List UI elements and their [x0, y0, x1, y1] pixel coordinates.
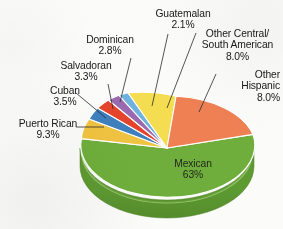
slice-label-puerto-rican-value: 9.3%	[2, 129, 94, 140]
slice-label-dominican-name: Dominican	[62, 34, 158, 45]
slice-label-other-hispanic: Other Hispanic 8.0%	[196, 69, 280, 103]
slice-label-central-south-american-value: 8.0%	[192, 51, 283, 62]
slice-label-mexican: Mexican 63%	[158, 158, 228, 181]
slice-label-central-south-american: Other Central/ South American 8.0%	[192, 28, 283, 62]
slice-label-dominican-value: 2.8%	[62, 45, 158, 56]
slice-label-central-south-american-name-line2: South American	[192, 39, 283, 50]
slice-label-cuban-value: 3.5%	[22, 96, 108, 107]
slice-label-puerto-rican: Puerto Rican 9.3%	[2, 118, 94, 141]
slice-label-mexican-name: Mexican	[158, 158, 228, 169]
slice-label-other-hispanic-name-line2: Hispanic	[196, 80, 280, 91]
slice-label-cuban: Cuban 3.5%	[22, 85, 108, 108]
slice-label-puerto-rican-name: Puerto Rican	[2, 118, 94, 129]
slice-label-mexican-value: 63%	[158, 169, 228, 180]
slice-label-cuban-name: Cuban	[22, 85, 108, 96]
slice-label-salvadoran-name: Salvadoran	[38, 60, 134, 71]
slice-label-other-hispanic-name-line1: Other	[196, 69, 280, 80]
slice-label-salvadoran-value: 3.3%	[38, 71, 134, 82]
slice-label-other-hispanic-value: 8.0%	[196, 92, 280, 103]
slice-label-dominican: Dominican 2.8%	[62, 34, 158, 57]
slice-label-central-south-american-name-line1: Other Central/	[192, 28, 283, 39]
pie-chart-figure: Guatemalan 2.1% Other Central/ South Ame…	[0, 0, 283, 229]
pie-slices	[81, 92, 255, 197]
slice-label-salvadoran: Salvadoran 3.3%	[38, 60, 134, 83]
slice-label-guatemalan-name: Guatemalan	[140, 8, 226, 19]
